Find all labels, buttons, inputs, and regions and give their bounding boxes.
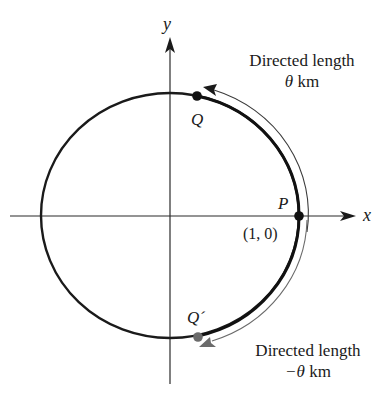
upper-directed-arrow bbox=[203, 84, 308, 232]
upper-annotation-line1: Directed length bbox=[232, 50, 372, 71]
upper-unit: km bbox=[297, 72, 319, 91]
lower-annotation-line2: −θ km bbox=[238, 361, 378, 382]
lower-unit: km bbox=[309, 362, 331, 381]
point-q bbox=[192, 91, 202, 101]
upper-annotation-line2: θ km bbox=[232, 71, 372, 92]
unit-circle-figure: y x Q P (1, 0) Q´ Directed length θ km D… bbox=[0, 0, 384, 406]
point-p-label: P bbox=[278, 195, 288, 212]
lower-annotation-line1: Directed length bbox=[238, 340, 378, 361]
point-p bbox=[294, 211, 304, 221]
y-axis bbox=[165, 37, 175, 384]
point-q-label: Q bbox=[191, 111, 203, 128]
y-axis-label: y bbox=[163, 15, 171, 33]
theta-symbol: θ bbox=[285, 72, 293, 91]
x-axis-label: x bbox=[363, 206, 371, 224]
point-q-prime bbox=[193, 332, 203, 342]
upper-annotation: Directed length θ km bbox=[232, 50, 372, 92]
x-axis bbox=[10, 211, 356, 221]
point-q-prime-label: Q´ bbox=[187, 309, 205, 326]
lower-annotation: Directed length −θ km bbox=[238, 340, 378, 382]
point-p-coordinates: (1, 0) bbox=[243, 226, 278, 242]
negative-theta-symbol: −θ bbox=[285, 362, 305, 381]
